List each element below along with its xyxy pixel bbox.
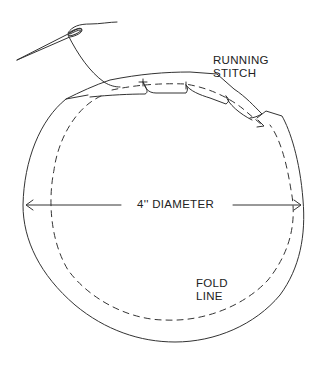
fold-line-label: FOLD LINE (196, 277, 228, 303)
diagram-canvas (0, 0, 323, 370)
fold-line-label-line1: FOLD (196, 277, 228, 290)
running-stitch-label-line2: STITCH (213, 67, 269, 80)
running-stitch-label-line1: RUNNING (213, 54, 269, 67)
diameter-label: 4'' DIAMETER (137, 198, 214, 211)
fold-line-label-line2: LINE (196, 290, 228, 303)
running-stitch-label: RUNNING STITCH (213, 54, 269, 80)
fabric-circle (23, 95, 304, 342)
